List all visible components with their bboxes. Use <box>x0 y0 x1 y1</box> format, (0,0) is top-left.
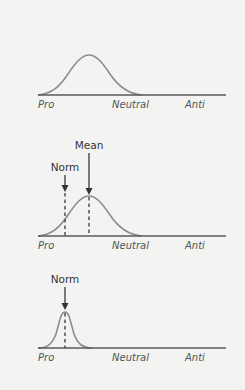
panel-2: Norm Mean Pro Neutral Anti <box>38 139 226 251</box>
axis-label-anti: Anti <box>184 99 205 110</box>
mean-label: Mean <box>75 139 104 151</box>
panel-1: Pro Neutral Anti <box>38 55 226 110</box>
axis-label-pro: Pro <box>38 352 54 363</box>
axis-label-neutral: Neutral <box>112 99 149 110</box>
axis-label-neutral: Neutral <box>112 352 149 363</box>
axis-label-neutral: Neutral <box>112 240 149 251</box>
arrow-down-icon <box>86 188 93 195</box>
distribution-curve <box>38 312 93 348</box>
axis-label-pro: Pro <box>38 99 54 110</box>
norm-label: Norm <box>51 273 80 285</box>
norm-marker: Norm <box>51 161 80 236</box>
mean-marker: Mean <box>75 139 104 236</box>
arrow-down-icon <box>62 303 69 310</box>
distribution-curve <box>38 55 142 95</box>
axis-label-anti: Anti <box>184 352 205 363</box>
axis-label-anti: Anti <box>184 240 205 251</box>
norm-label: Norm <box>51 161 80 173</box>
arrow-down-icon <box>62 185 69 192</box>
panel-3: Norm Pro Neutral Anti <box>38 273 226 363</box>
distribution-diagram: Pro Neutral Anti Norm Mean Pro Neutral A… <box>0 0 245 390</box>
axis-label-pro: Pro <box>38 240 54 251</box>
distribution-curve <box>38 196 142 236</box>
